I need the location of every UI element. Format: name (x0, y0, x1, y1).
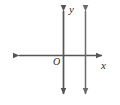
y-axis-label: y (69, 4, 74, 15)
coordinate-plane-figure: y x O (0, 0, 120, 105)
x-axis-label: x (101, 60, 106, 71)
coordinate-plane-svg (0, 0, 120, 105)
origin-label: O (53, 57, 60, 67)
